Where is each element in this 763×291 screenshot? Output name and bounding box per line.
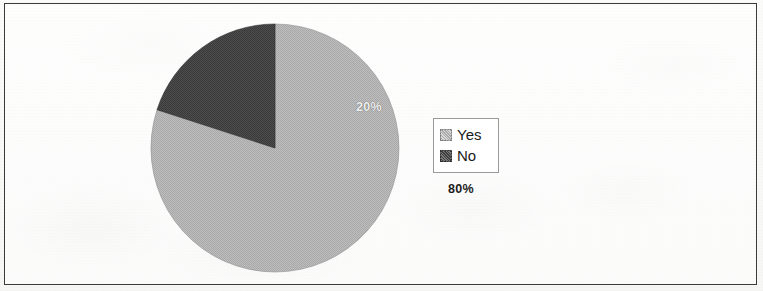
legend-label-no: No	[457, 148, 476, 163]
legend-item-yes: Yes	[440, 124, 491, 145]
pie-data-label-yes: 80%	[448, 182, 474, 196]
legend-swatch-yes-icon	[440, 129, 452, 141]
legend-swatch-no-icon	[440, 150, 452, 162]
legend-label-yes: Yes	[457, 127, 481, 142]
chart-plot-area: 20% 80% Yes No	[5, 4, 756, 284]
pie-chart-graphic: 20% 80%	[149, 22, 401, 274]
pie-svg	[149, 22, 401, 274]
chart-frame-border: 20% 80% Yes No	[4, 3, 757, 285]
chart-legend: Yes No	[433, 118, 499, 173]
legend-item-no: No	[440, 145, 491, 166]
pie-chart-screenshot: 20% 80% Yes No	[0, 0, 763, 291]
